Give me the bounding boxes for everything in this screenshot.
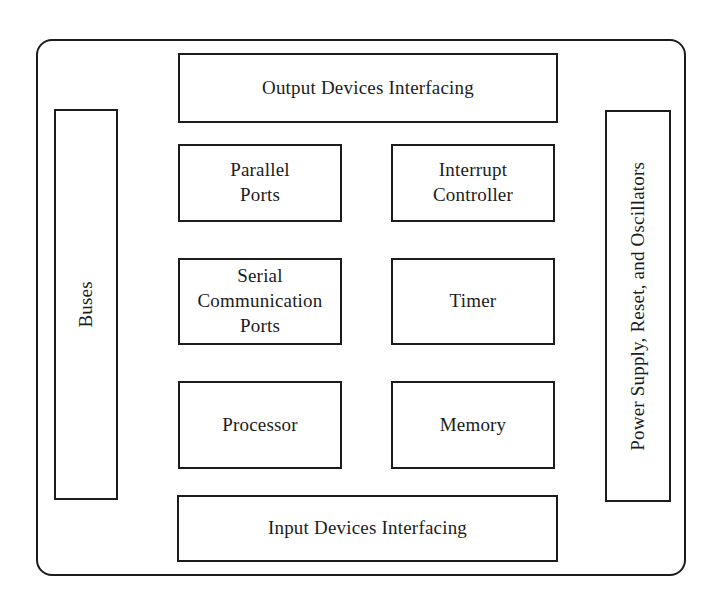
block-serial-communication-ports: Serial Communication Ports [178,258,342,345]
block-timer: Timer [391,258,555,345]
block-parallel-ports: Parallel Ports [178,144,342,222]
block-output-devices-interfacing: Output Devices Interfacing [178,53,558,123]
block-label: Output Devices Interfacing [262,76,474,101]
block-label: Parallel Ports [230,158,290,207]
block-label: Power Supply, Reset, and Oscillators [626,162,651,451]
block-label: Serial Communication Ports [197,264,322,338]
block-label: Buses [74,281,99,327]
block-label: Memory [440,413,507,438]
block-interrupt-controller: Interrupt Controller [391,144,555,222]
block-power-supply-reset-oscillators: Power Supply, Reset, and Oscillators [605,110,671,502]
block-memory: Memory [391,381,555,469]
block-label: Input Devices Interfacing [268,516,467,541]
block-processor: Processor [178,381,342,469]
diagram-canvas: Output Devices Interfacing Buses Power S… [0,0,717,606]
block-input-devices-interfacing: Input Devices Interfacing [177,495,558,562]
block-label: Timer [450,289,497,314]
block-label: Interrupt Controller [433,158,513,207]
block-label: Processor [222,413,298,438]
block-buses: Buses [54,109,118,500]
